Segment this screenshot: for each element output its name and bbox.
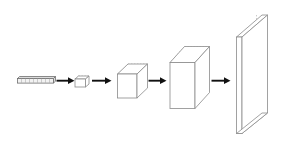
architecture-diagram (0, 0, 291, 143)
arrow-head-icon (68, 77, 75, 84)
stage-3-cube (118, 64, 148, 98)
arrow-head-icon (105, 77, 112, 84)
stage-3-front-face (118, 74, 138, 98)
arrow-head-icon (160, 77, 167, 84)
arrow-stage4-to-stage5 (212, 77, 231, 84)
stage-2-front-face (75, 79, 86, 87)
diagram-canvas (0, 0, 291, 143)
stage-4-front-face (170, 63, 195, 109)
stage-1-input-vector-bar (18, 77, 56, 84)
arrow-stage2-to-stage3 (92, 77, 112, 84)
stage-4-tall-box (170, 47, 210, 109)
arrow-head-icon (224, 77, 231, 84)
stage-5-large-thin-slab (237, 15, 268, 134)
arrow-stage1-to-stage2 (57, 77, 75, 84)
stage-5-front-face (237, 37, 243, 134)
arrow-stage3-to-stage4 (149, 77, 167, 84)
stage-2-small-flat-cuboid (75, 76, 89, 87)
vector-bar-front-face (18, 79, 54, 84)
